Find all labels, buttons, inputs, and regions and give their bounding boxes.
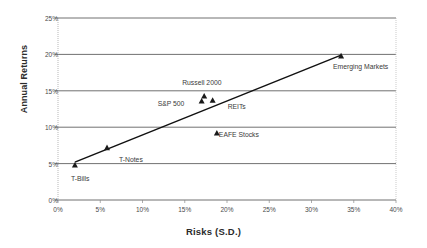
data-point-label: S&P 500 [158,100,185,108]
trendline [75,55,341,162]
x-tick-label: 5% [80,206,120,213]
data-point-label: T-Bills [71,175,90,183]
x-tick-label: 10% [123,206,163,213]
x-tick-label: 30% [292,206,332,213]
data-point-marker[interactable] [210,97,216,103]
data-point-label: Russell 2000 [182,79,221,87]
x-tick-label: 25% [249,206,289,213]
x-tick-label: 0% [38,206,78,213]
x-tick-label: 35% [334,206,374,213]
data-point-marker[interactable] [199,98,205,104]
x-tick-label: 15% [165,206,205,213]
data-point-label: T-Notes [119,156,143,164]
x-tick-label: 20% [207,206,247,213]
data-point-marker[interactable] [201,93,207,99]
data-point-marker[interactable] [72,162,78,168]
x-axis-title: Risks (S.D.) [0,226,427,237]
risk-return-scatter-chart: Annual Returns 0%5%10%15%20%25% 0%5%10%1… [0,0,427,248]
data-point-label: Emerging Markets [333,63,388,71]
data-point-label: REITs [228,103,246,111]
data-point-marker[interactable] [104,145,110,151]
data-point-label: EAFE Stocks [219,131,259,139]
x-tick-label: 40% [376,206,416,213]
